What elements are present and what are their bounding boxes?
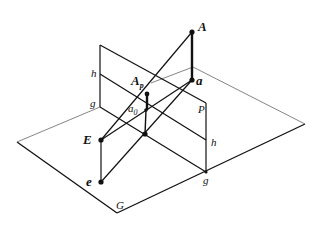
drop-line <box>145 110 146 134</box>
label-a: a <box>196 74 203 87</box>
label-G: G <box>116 200 124 211</box>
label-g-right: g <box>203 175 209 186</box>
diagram-canvas <box>0 0 319 229</box>
label-Ap-sub: p <box>140 81 144 90</box>
label-P: P <box>198 104 205 115</box>
label-E: E <box>83 133 92 146</box>
label-a0-sub: 0 <box>134 108 138 117</box>
point-Ap <box>145 92 150 97</box>
verticals <box>147 32 192 110</box>
label-g-left: g <box>90 98 96 109</box>
point-a <box>189 77 194 82</box>
label-a0: a0 <box>128 103 138 117</box>
label-h-right: h <box>211 137 217 148</box>
point-a0 <box>144 108 148 112</box>
point-e <box>98 179 103 184</box>
label-Ap-main: A <box>131 73 140 88</box>
ray-E-A <box>101 32 192 140</box>
label-h-left: h <box>91 68 97 79</box>
point-center <box>142 131 147 136</box>
label-A: A <box>198 20 207 33</box>
label-Ap: Ap <box>131 74 144 90</box>
ground-line <box>100 107 206 172</box>
perspective-diagram: A a Ap a0 E e h g h g P G <box>0 0 319 229</box>
point-A <box>189 29 194 34</box>
ground-plane <box>17 67 305 213</box>
point-E <box>98 137 103 142</box>
picture-plane <box>100 45 206 172</box>
label-e: e <box>86 175 92 188</box>
